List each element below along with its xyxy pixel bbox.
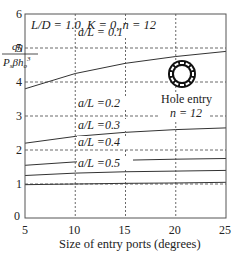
y-tick-label: 1: [16, 177, 22, 191]
x-tick-label: 10: [68, 223, 80, 237]
y-axis-label: qη Psβho3: [2, 40, 38, 70]
curve-label: a/L =0.2: [78, 96, 120, 110]
svg-text:Psβho3: Psβho3: [2, 55, 31, 70]
y-tick-label: 0: [14, 209, 20, 223]
parameter-annotation: L/D = 1.0, K = 0, n = 12: [30, 18, 156, 32]
y-tick-label: 2: [16, 143, 22, 157]
x-tick-label: 20: [169, 223, 181, 237]
ring-with-holes-icon: [168, 60, 196, 88]
chart: 5101520250123456 a/L = 0.1a/L =0.2a/L =0…: [0, 0, 239, 263]
inset-label: Hole entry: [161, 92, 212, 106]
x-tick-label: 5: [22, 223, 28, 237]
y-tick-label: 4: [16, 75, 22, 89]
y-tick-label: 6: [16, 7, 22, 21]
x-axis-label: Size of entry ports (degrees): [59, 237, 201, 251]
curve-label: a/L =0.5: [78, 156, 120, 170]
x-tick-label: 15: [119, 223, 131, 237]
y-tick-label: 3: [16, 109, 22, 123]
curve-labels: a/L = 0.1a/L =0.2a/L =0.3a/L =0.4a/L =0.…: [77, 25, 133, 170]
curve-label: a/L =0.4: [78, 135, 120, 149]
svg-text:qη: qη: [12, 40, 23, 52]
x-tick-label: 25: [219, 223, 231, 237]
inset-sublabel: n = 12: [170, 106, 202, 120]
curve-label: a/L =0.3: [78, 118, 120, 132]
